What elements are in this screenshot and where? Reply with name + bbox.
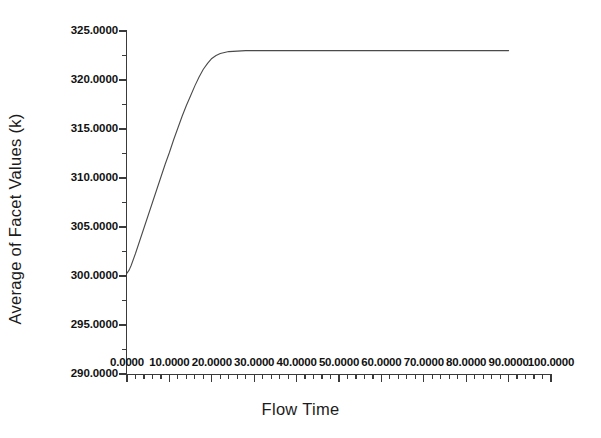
x-tick-major — [423, 374, 424, 382]
series-path — [127, 51, 509, 273]
x-tick-minor — [160, 374, 161, 379]
x-tick-minor — [406, 374, 407, 379]
x-tick-label: 40.0000 — [277, 356, 317, 368]
x-tick-label: 10.0000 — [149, 356, 189, 368]
x-tick-minor — [449, 374, 450, 379]
x-tick-minor — [279, 374, 280, 379]
x-tick-label: 60.0000 — [361, 356, 401, 368]
x-tick-minor — [135, 374, 136, 379]
x-tick-minor — [500, 374, 501, 379]
x-tick-minor — [143, 374, 144, 379]
x-tick-minor — [220, 374, 221, 379]
x-tick-major — [169, 374, 170, 382]
x-tick-minor — [516, 374, 517, 379]
y-tick-major — [119, 177, 127, 178]
x-tick-minor — [355, 374, 356, 379]
y-tick-label: 290.0000 — [0, 367, 118, 379]
y-tick-label: 305.0000 — [0, 220, 118, 232]
x-tick-label: 0.0000 — [110, 356, 144, 368]
y-tick-major — [119, 79, 127, 80]
x-tick-minor — [440, 374, 441, 379]
x-tick-minor — [321, 374, 322, 379]
y-tick-major — [119, 275, 127, 276]
x-tick-minor — [542, 374, 543, 379]
y-tick-label: 300.0000 — [0, 269, 118, 281]
x-tick-minor — [228, 374, 229, 379]
y-tick-label: 295.0000 — [0, 318, 118, 330]
x-tick-major — [126, 374, 127, 382]
x-tick-label: 30.0000 — [234, 356, 274, 368]
x-tick-minor — [364, 374, 365, 379]
x-tick-minor — [474, 374, 475, 379]
y-tick-label: 325.0000 — [0, 24, 118, 36]
x-tick-minor — [177, 374, 178, 379]
x-tick-minor — [389, 374, 390, 379]
x-tick-label: 50.0000 — [319, 356, 359, 368]
x-tick-label: 70.0000 — [404, 356, 444, 368]
x-tick-major — [466, 374, 467, 382]
x-tick-minor — [491, 374, 492, 379]
x-tick-minor — [237, 374, 238, 379]
x-tick-minor — [271, 374, 272, 379]
x-tick-major — [381, 374, 382, 382]
y-tick-major — [119, 30, 127, 31]
x-tick-label: 20.0000 — [192, 356, 232, 368]
x-tick-major — [508, 374, 509, 382]
plot-area — [127, 31, 551, 374]
x-tick-minor — [313, 374, 314, 379]
x-tick-major — [550, 374, 551, 382]
x-axis-title: Flow Time — [0, 400, 601, 419]
x-tick-major — [338, 374, 339, 382]
x-tick-minor — [483, 374, 484, 379]
x-tick-minor — [525, 374, 526, 379]
y-tick-label: 310.0000 — [0, 171, 118, 183]
x-tick-minor — [262, 374, 263, 379]
x-tick-minor — [245, 374, 246, 379]
x-tick-minor — [288, 374, 289, 379]
y-tick-major — [119, 226, 127, 227]
x-tick-minor — [152, 374, 153, 379]
x-tick-label: 100.0000 — [528, 356, 574, 368]
y-tick-major — [119, 128, 127, 129]
x-tick-minor — [304, 374, 305, 379]
x-tick-minor — [194, 374, 195, 379]
x-tick-label: 90.0000 — [489, 356, 529, 368]
y-tick-major — [119, 324, 127, 325]
x-tick-minor — [203, 374, 204, 379]
x-tick-minor — [432, 374, 433, 379]
y-tick-label: 320.0000 — [0, 73, 118, 85]
x-tick-minor — [372, 374, 373, 379]
x-tick-major — [211, 374, 212, 382]
x-tick-minor — [186, 374, 187, 379]
x-tick-label: 80.0000 — [446, 356, 486, 368]
x-tick-minor — [347, 374, 348, 379]
x-tick-major — [254, 374, 255, 382]
chart-figure: Average of Facet Values (k) 325.0000320.… — [0, 0, 601, 438]
y-tick-label: 315.0000 — [0, 122, 118, 134]
x-tick-minor — [457, 374, 458, 379]
x-tick-minor — [533, 374, 534, 379]
x-tick-minor — [415, 374, 416, 379]
x-tick-minor — [330, 374, 331, 379]
x-tick-major — [296, 374, 297, 382]
data-line-series — [127, 31, 551, 374]
x-tick-minor — [398, 374, 399, 379]
